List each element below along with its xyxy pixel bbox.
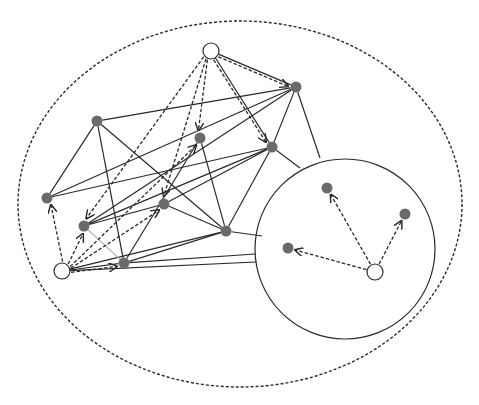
edge-A-F bbox=[50, 126, 94, 194]
node-D bbox=[291, 82, 302, 93]
node-L bbox=[283, 243, 294, 254]
arrow-S2-F bbox=[51, 205, 63, 262]
arrow-layer bbox=[51, 57, 402, 273]
arrow-S2-C bbox=[71, 210, 159, 268]
edge-S2-I bbox=[70, 232, 221, 269]
node-F bbox=[42, 193, 53, 204]
arrow-S1-C bbox=[164, 59, 206, 196]
edge-S1-E bbox=[215, 58, 269, 143]
edge-E-G bbox=[89, 149, 267, 224]
node-K bbox=[400, 209, 411, 220]
edge-A-D bbox=[102, 88, 290, 120]
arrow-S1-E bbox=[214, 60, 266, 142]
node-C bbox=[159, 199, 170, 210]
edge-F-D bbox=[52, 89, 291, 196]
node-H bbox=[119, 258, 130, 269]
node-J bbox=[322, 183, 333, 194]
source-node-S2 bbox=[54, 263, 70, 279]
edge-layer bbox=[50, 54, 320, 271]
edge-I-boundary bbox=[231, 232, 262, 236]
node-B bbox=[195, 133, 206, 144]
source-node-S1 bbox=[203, 43, 219, 59]
arrow-S3-K bbox=[379, 221, 401, 264]
edge-E-boundary bbox=[276, 150, 300, 168]
edge-C-I bbox=[169, 206, 221, 229]
edge-D-G bbox=[89, 90, 292, 223]
inner-region bbox=[255, 159, 435, 339]
edge-F-E bbox=[52, 148, 266, 197]
network-diagram bbox=[0, 0, 479, 405]
node-A bbox=[92, 116, 103, 127]
node-I bbox=[221, 226, 232, 237]
arrow-S3-L bbox=[295, 250, 366, 270]
region-layer bbox=[18, 21, 462, 387]
node-G bbox=[79, 221, 90, 232]
edge-A-H bbox=[98, 126, 123, 257]
arrow-S2-G bbox=[68, 234, 83, 264]
edge-D-boundary bbox=[298, 92, 320, 158]
arrow-S1-G bbox=[86, 57, 203, 219]
source-node-S3 bbox=[367, 264, 383, 280]
arrow-S3-J bbox=[331, 195, 371, 265]
node-E bbox=[267, 142, 278, 153]
arrow-S1-D bbox=[218, 57, 288, 87]
outer-region bbox=[18, 21, 462, 387]
